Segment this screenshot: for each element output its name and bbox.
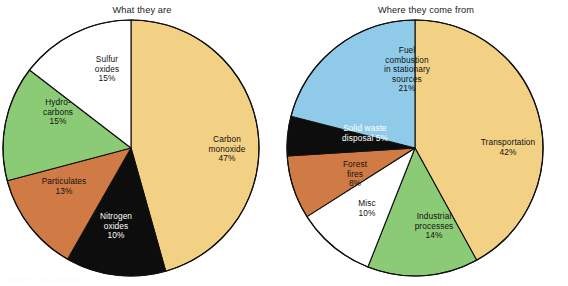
panel-where-they-come-from: Where they come from Transportation 42%I…	[284, 0, 568, 286]
pie-svg	[0, 0, 284, 286]
pie-chart-where-they-come-from: Transportation 42%Industrial processes 1…	[284, 0, 568, 286]
figure-caption-ghost: Figure 1 Air pollution	[8, 276, 81, 283]
pollution-pie-figure: What they are Carbon monoxide 47%Nitroge…	[0, 0, 568, 286]
panel-what-they-are: What they are Carbon monoxide 47%Nitroge…	[0, 0, 284, 286]
pie-chart-what-they-are: Carbon monoxide 47%Nitrogen oxides 10%Pa…	[0, 0, 284, 286]
pie-svg	[284, 0, 568, 286]
